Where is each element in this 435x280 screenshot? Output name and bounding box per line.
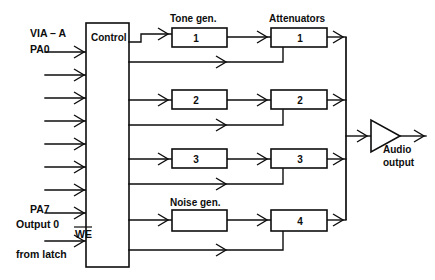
input-arrow-pa0: [45, 46, 86, 58]
we-source-line1-label: Output 0: [16, 218, 59, 230]
audio-output-line1-label: Audio: [383, 144, 411, 155]
input-arrow-pa1: [45, 69, 86, 81]
tone-gen-2-box: [172, 90, 227, 109]
tone-gen-3-box: [172, 149, 227, 168]
sound-generator-block-diagram: VIA – A PA0 PA7 Output 0 from latch WE C…: [0, 0, 435, 280]
noise-gen-header: Noise gen.: [170, 197, 221, 208]
input-arrow-pa3: [45, 115, 86, 127]
input-arrow-pa4: [45, 138, 86, 150]
tone-gen-1-box: [172, 28, 227, 47]
noise-gen-box: [172, 210, 227, 231]
via-a-label: VIA – A: [30, 27, 66, 39]
pa7-label: PA7: [30, 203, 50, 215]
we-source-line2-label: from latch: [16, 248, 67, 260]
attenuator-1-label: 1: [297, 33, 303, 44]
audio-output-line2-label: output: [383, 157, 415, 168]
input-arrow-pa6: [45, 184, 86, 196]
control-block: [86, 23, 129, 267]
attenuators-header: Attenuators: [269, 13, 326, 24]
attenuator-3-label: 3: [297, 154, 303, 165]
input-arrow-pa2: [45, 92, 86, 104]
input-arrow-pa5: [45, 161, 86, 173]
tone-gen-1-label: 1: [193, 33, 199, 44]
mixing-bus: [346, 37, 371, 220]
pa0-label: PA0: [30, 43, 50, 55]
attenuator-2-label: 2: [297, 95, 303, 106]
input-arrow-group: [45, 46, 86, 247]
control-block-label: Control: [91, 32, 127, 43]
tone-gen-header: Tone gen.: [170, 13, 217, 24]
attenuator-4-label: 4: [297, 216, 303, 227]
diagram-canvas: VIA – A PA0 PA7 Output 0 from latch WE C…: [0, 0, 435, 280]
we-label: WE: [75, 228, 92, 240]
tone-gen-2-label: 2: [193, 95, 199, 106]
tone-gen-3-label: 3: [193, 154, 199, 165]
